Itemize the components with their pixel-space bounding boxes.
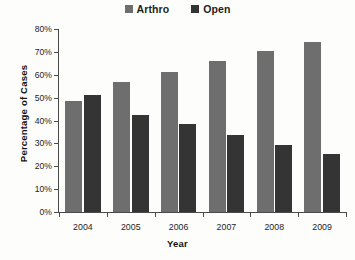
bar-open-2007	[227, 135, 244, 212]
y-axis-tick	[54, 166, 59, 167]
x-axis-tick	[250, 212, 251, 217]
bar-open-2008	[275, 145, 292, 212]
bar-open-2004	[84, 95, 101, 212]
y-axis-tick-label: 10%	[35, 184, 52, 194]
bar-arthro-2007	[209, 61, 226, 212]
legend-entry-open: Open	[191, 4, 230, 15]
chart-legend: Arthro Open	[0, 4, 355, 15]
y-axis-tick-label: 80%	[35, 24, 52, 34]
x-axis-tick-label: 2007	[217, 222, 237, 232]
y-axis-tick-label: 40%	[35, 116, 52, 126]
bar-open-2005	[132, 115, 149, 212]
bar-open-2006	[179, 124, 196, 212]
bar-arthro-2009	[304, 42, 321, 212]
legend-label-open: Open	[203, 4, 230, 15]
legend-swatch-open	[191, 5, 199, 13]
legend-label-arthro: Arthro	[137, 4, 170, 15]
bar-arthro-2005	[113, 82, 130, 212]
x-axis-tick-label: 2009	[312, 222, 332, 232]
y-axis-tick	[54, 189, 59, 190]
x-axis-tick-label: 2004	[73, 222, 93, 232]
x-axis-tick	[346, 212, 347, 217]
y-axis-tick-label: 50%	[35, 93, 52, 103]
legend-entry-arthro: Arthro	[125, 4, 170, 15]
x-axis-tick	[155, 212, 156, 217]
bar-chart-figure: Arthro Open Percentage of Cases 0%10%20%…	[0, 0, 355, 260]
bar-arthro-2006	[161, 72, 178, 212]
plot-area: 0%10%20%30%40%50%60%70%80%20042005200620…	[58, 29, 346, 213]
bar-open-2009	[323, 154, 340, 212]
y-axis-tick-label: 60%	[35, 70, 52, 80]
x-axis-tick-label: 2005	[121, 222, 141, 232]
y-axis-tick-label: 0%	[40, 207, 52, 217]
x-axis-tick-label: 2008	[264, 222, 284, 232]
y-axis-title: Percentage of Cases	[18, 39, 29, 189]
x-axis-tick	[107, 212, 108, 217]
bar-arthro-2008	[257, 51, 274, 212]
y-axis-tick-label: 30%	[35, 138, 52, 148]
x-axis-tick-label: 2006	[169, 222, 189, 232]
y-axis-tick	[54, 75, 59, 76]
y-axis-tick	[54, 29, 59, 30]
x-axis-tick	[59, 212, 60, 217]
y-axis-tick	[54, 121, 59, 122]
y-axis-tick	[54, 98, 59, 99]
x-axis-tick	[298, 212, 299, 217]
y-axis-tick-label: 70%	[35, 47, 52, 57]
y-axis-tick	[54, 143, 59, 144]
y-axis-tick	[54, 52, 59, 53]
y-axis-tick-label: 20%	[35, 161, 52, 171]
bar-arthro-2004	[65, 101, 82, 212]
x-axis-tick	[203, 212, 204, 217]
legend-swatch-arthro	[125, 5, 133, 13]
x-axis-title: Year	[0, 238, 355, 249]
